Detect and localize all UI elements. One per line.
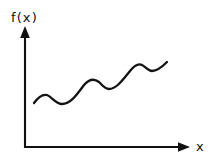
function-plot-figure: f(x) x [0,0,215,161]
x-axis-label: x [196,140,204,153]
y-axis-label: f(x) [11,11,38,24]
function-curve [34,62,167,104]
y-axis-arrow-icon [20,26,30,38]
x-axis-arrow-icon [178,142,190,152]
